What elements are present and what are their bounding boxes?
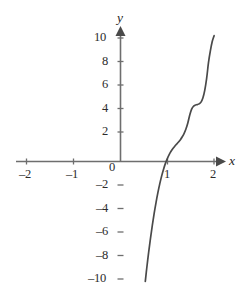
- y-tick-label-neg4: –4: [96, 202, 108, 215]
- x-axis-label: x: [229, 154, 235, 168]
- chart-figure: y x 10 8 6 4 2 –2 –4 –6 –8 –10 –2 –1 0 1…: [0, 0, 244, 291]
- y-tick-label-neg10: –10: [88, 272, 106, 285]
- y-tick-label-10: 10: [94, 31, 106, 44]
- data-series-curve: [145, 36, 214, 282]
- y-tick-label-neg8: –8: [96, 249, 108, 262]
- y-tick-label-6: 6: [102, 78, 108, 91]
- plot-canvas: [0, 0, 244, 291]
- x-tick-label-neg1: –1: [66, 168, 78, 181]
- y-tick-label-neg2: –2: [96, 178, 108, 191]
- x-axis-arrow-icon: [216, 157, 226, 167]
- y-tick-label-8: 8: [102, 55, 108, 68]
- y-tick-label-4: 4: [102, 102, 108, 115]
- y-axis-label: y: [117, 11, 123, 25]
- x-tick-label-neg2: –2: [19, 168, 31, 181]
- y-tick-label-2: 2: [102, 125, 108, 138]
- y-tick-label-neg6: –6: [96, 225, 108, 238]
- y-axis-arrow-icon: [116, 26, 126, 36]
- x-tick-label-2: 2: [210, 168, 216, 181]
- x-tick-label-1: 1: [164, 168, 170, 181]
- x-tick-label-0: 0: [109, 161, 115, 174]
